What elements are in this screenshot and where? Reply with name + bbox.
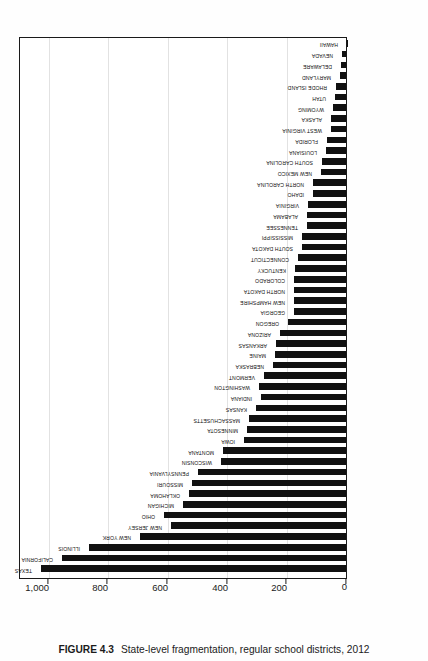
- bar-label: NEVADA: [312, 53, 333, 59]
- bar-slot: KENTUCKY: [20, 263, 347, 274]
- bar: [171, 522, 347, 529]
- bar-slot: OKLAHOMA: [20, 488, 347, 499]
- axis-tick-label: 600: [152, 581, 168, 592]
- bar: [164, 511, 347, 518]
- plot-inner: TEXASCALIFORNIAILLINOISNEW YORKNEW JERSE…: [20, 38, 347, 578]
- bar-label: MARYLAND: [302, 74, 331, 80]
- bar-slot: SOUTH CAROLINA: [20, 155, 347, 166]
- bar-label: GEORGIA: [260, 310, 284, 316]
- bar: [280, 329, 347, 336]
- bar-label: UTAH: [312, 96, 326, 102]
- bar-label: ILLINOIS: [58, 546, 80, 552]
- bar-label: MISSOURI: [157, 482, 183, 488]
- bar: [259, 383, 347, 390]
- bar-label: TENNESSEE: [266, 224, 298, 230]
- bar: [294, 297, 347, 304]
- bar: [313, 190, 347, 197]
- bar: [183, 501, 347, 508]
- bar-label: VIRGINIA: [276, 203, 299, 209]
- bar: [322, 158, 347, 165]
- bar-label: MASSACHUSETTS: [194, 417, 241, 423]
- bar: [294, 275, 347, 282]
- bar: [261, 393, 348, 400]
- bar-label: OHIO: [142, 514, 155, 520]
- bar-slot: MONTANA: [20, 445, 347, 456]
- bar: [192, 479, 347, 486]
- bar-slot: MAINE: [20, 348, 347, 359]
- bar-label: OKLAHOMA: [150, 492, 180, 498]
- axis-tick-label: 200: [272, 581, 288, 592]
- bar-slot: KANSAS: [20, 402, 347, 413]
- bar-slot: TENNESSEE: [20, 220, 347, 231]
- bar: [307, 222, 347, 229]
- value-axis: 02004006008001,000: [19, 579, 347, 631]
- bar-slot: MICHIGAN: [20, 498, 347, 509]
- bar-label: IOWA: [221, 439, 235, 445]
- bar-slot: PENNSYLVANIA: [20, 466, 347, 477]
- bar-slot: ALASKA: [20, 113, 347, 124]
- bar-label: ARIZONA: [247, 332, 270, 338]
- bar-label: WEST VIRGINIA: [282, 128, 322, 134]
- bar-slot: NEW MEXICO: [20, 166, 347, 177]
- bar-label: CALIFORNIA: [22, 557, 54, 563]
- bar-slot: OHIO: [20, 509, 347, 520]
- bar-slot: MASSACHUSETTS: [20, 413, 347, 424]
- bar-label: NORTH DAKOTA: [244, 289, 285, 295]
- axis-tick-label: 400: [212, 581, 228, 592]
- bar: [223, 447, 347, 454]
- bar-slot: TEXAS: [20, 563, 347, 574]
- bar-slot: COLORADO: [20, 273, 347, 284]
- bar-slot: WYOMING: [20, 102, 347, 113]
- bar-label: ARKANSAS: [238, 342, 267, 348]
- bar-label: MAINE: [249, 353, 266, 359]
- bar-slot: NEW JERSEY: [20, 520, 347, 531]
- bar-label: HAWAII: [319, 42, 337, 48]
- bar: [89, 543, 347, 550]
- axis-tick-label: 1,000: [25, 581, 49, 592]
- bar-label: WASHINGTON: [215, 385, 251, 391]
- bar-slot: WEST VIRGINIA: [20, 123, 347, 134]
- bar-slot: IDAHO: [20, 188, 347, 199]
- bar-slot: SOUTH DAKOTA: [20, 241, 347, 252]
- axis-baseline: [346, 38, 347, 578]
- bar: [264, 372, 347, 379]
- bar-label: LOUISIANA: [289, 149, 317, 155]
- bar: [140, 533, 347, 540]
- bar-slot: NEVADA: [20, 48, 347, 59]
- bar-label: SOUTH DAKOTA: [252, 246, 293, 252]
- bar: [221, 458, 347, 465]
- bar-slot: LOUISIANA: [20, 145, 347, 156]
- bar-label: ALASKA: [302, 117, 322, 123]
- bar-slot: ARIZONA: [20, 327, 347, 338]
- bar: [302, 243, 347, 250]
- bar-slot: NORTH DAKOTA: [20, 284, 347, 295]
- bar-label: NEW YORK: [102, 535, 130, 541]
- bar-label: COLORADO: [255, 278, 285, 284]
- bar-slot: CALIFORNIA: [20, 552, 347, 563]
- bar-label: MONTANA: [189, 449, 215, 455]
- bar-label: ALABAMA: [273, 214, 298, 220]
- bar: [275, 350, 347, 357]
- bar: [295, 265, 347, 272]
- plot-area: TEXASCALIFORNIAILLINOISNEW YORKNEW JERSE…: [19, 37, 347, 579]
- bar: [307, 211, 347, 218]
- bar: [198, 468, 347, 475]
- bar: [331, 115, 347, 122]
- bar: [321, 168, 347, 175]
- bar-slot: NEBRASKA: [20, 359, 347, 370]
- bar-chart: 02004006008001,000 TEXASCALIFORNIAILLINO…: [11, 31, 381, 631]
- bar: [244, 436, 347, 443]
- bar: [288, 318, 347, 325]
- bar-slot: NEW HAMPSHIRE: [20, 295, 347, 306]
- figure-number: FIGURE 4.3: [58, 644, 113, 655]
- bar-slot: MINNESOTA: [20, 423, 347, 434]
- bar: [273, 361, 347, 368]
- bar-label: KANSAS: [226, 407, 247, 413]
- bar-label: NEW MEXICO: [277, 171, 311, 177]
- bar-slot: FLORIDA: [20, 134, 347, 145]
- bar-label: PENNSYLVANIA: [150, 471, 190, 477]
- bar-slot: ILLINOIS: [20, 541, 347, 552]
- bar-slot: MISSISSIPPI: [20, 231, 347, 242]
- bar-label: NEW JERSEY: [128, 524, 162, 530]
- bar-slot: CONNECTICUT: [20, 252, 347, 263]
